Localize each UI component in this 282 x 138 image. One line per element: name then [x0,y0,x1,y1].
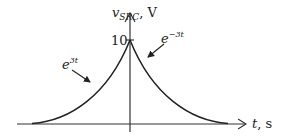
x-axis-label: t, s [252,116,272,131]
waveform-diagram: vSRC, V 10 e−3t e3t t, s [0,0,282,138]
peak-value-label: 10 [111,33,128,48]
rising-exponential-curve [32,40,130,124]
right-curve-label: e−3t [161,30,184,46]
left-curve-pointer-arrow [72,70,90,82]
voltage-axis [125,13,135,132]
y-axis-label: vSRC, V [112,5,157,22]
left-curve-label: e3t [62,56,79,72]
decaying-exponential-curve [130,40,228,124]
